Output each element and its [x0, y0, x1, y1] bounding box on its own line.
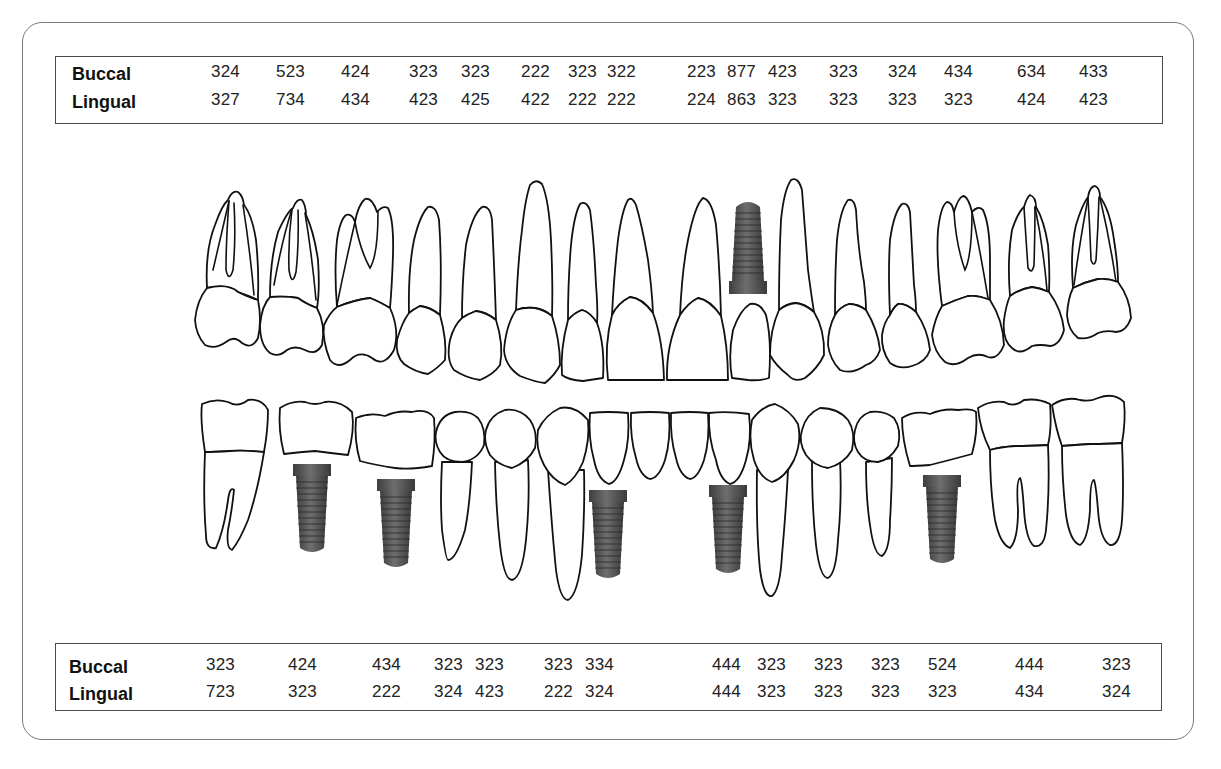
lower-implant-5 [923, 475, 961, 563]
lower-tooth-20 [436, 412, 485, 560]
upper-tooth-4 [397, 207, 446, 374]
lower-tooth-26 [709, 412, 750, 484]
upper-tooth-2 [260, 200, 323, 355]
dental-arch-diagram [0, 0, 1221, 769]
lower-tooth-22 [537, 408, 588, 601]
upper-tooth-12 [828, 200, 880, 372]
lower-tooth-24 [631, 412, 670, 479]
lower-tooth-32 [1052, 396, 1125, 545]
lower-implant-2 [377, 479, 415, 567]
lower-tooth-25 [671, 412, 709, 479]
upper-tooth-11 [770, 179, 824, 380]
lower-tooth-23 [590, 412, 629, 484]
lower-tooth-19 [356, 411, 435, 469]
upper-tooth-3 [324, 199, 397, 365]
lower-tooth-29 [854, 412, 899, 556]
upper-tooth-9 [667, 198, 728, 380]
lower-arch [201, 396, 1124, 600]
upper-tooth-16 [1067, 186, 1131, 338]
upper-tooth-5 [449, 207, 502, 380]
upper-tooth-15 [1004, 195, 1064, 352]
lower-tooth-17 [201, 400, 268, 550]
lower-tooth-27 [750, 404, 799, 596]
lower-tooth-30 [902, 409, 977, 466]
upper-tooth-10 [730, 304, 770, 381]
upper-implant [729, 202, 767, 294]
lower-implant-1 [293, 464, 331, 552]
upper-tooth-6 [504, 181, 560, 383]
lower-implant-4 [709, 485, 747, 573]
lower-tooth-21 [485, 410, 536, 580]
lower-tooth-18 [280, 402, 353, 455]
upper-arch [195, 179, 1131, 383]
upper-tooth-8 [607, 199, 664, 380]
lower-implant-3 [589, 490, 627, 578]
upper-tooth-13 [882, 204, 930, 368]
lower-tooth-28 [801, 408, 854, 578]
upper-tooth-1 [195, 192, 260, 347]
lower-tooth-31 [978, 400, 1051, 549]
upper-tooth-7 [562, 203, 604, 381]
upper-tooth-14 [932, 196, 1004, 364]
